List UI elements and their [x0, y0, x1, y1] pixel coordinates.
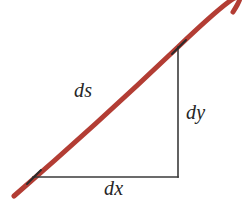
horizontal-leg-label-dx: dx: [104, 178, 123, 198]
arc-length-figure: ds dy dx: [0, 0, 246, 214]
arc-length-label-ds: ds: [74, 80, 92, 100]
vertical-leg-label-dy: dy: [186, 102, 205, 122]
